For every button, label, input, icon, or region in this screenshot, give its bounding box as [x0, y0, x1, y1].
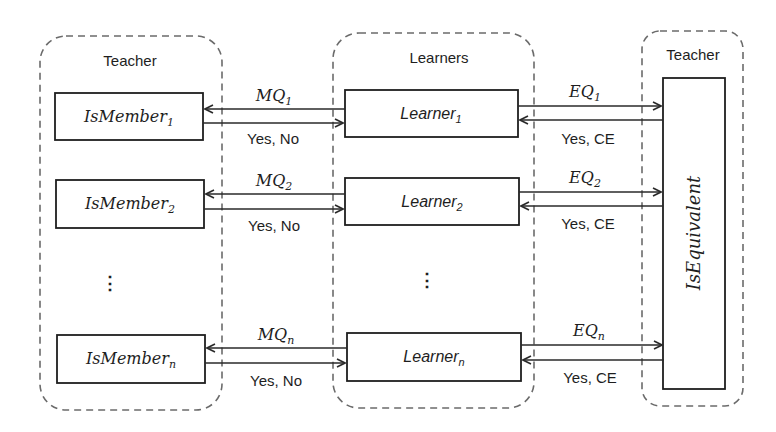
- left-teacher-title: Teacher: [103, 52, 156, 69]
- mq-n-reply-label: Yes, No: [250, 372, 302, 389]
- eq-1-label: EQ1: [568, 82, 601, 104]
- is-member-2-label: IsMember2: [84, 194, 175, 216]
- mq-1-label: MQ1: [255, 86, 293, 108]
- diagram-canvas: Teacher Learners Teacher IsMember1 IsMem…: [0, 0, 776, 432]
- is-member-n-label: IsMembern: [85, 349, 176, 371]
- members-ellipsis: ⋮: [101, 273, 119, 293]
- mq-n-label: MQn: [257, 325, 295, 347]
- eq-2-reply-label: Yes, CE: [561, 215, 615, 232]
- is-member-1-label: IsMember1: [83, 107, 174, 129]
- learners-ellipsis: ⋮: [418, 270, 436, 290]
- eq-2-label: EQ2: [568, 168, 601, 190]
- mq-2-label: MQ2: [255, 171, 293, 193]
- eq-n-reply-label: Yes, CE: [563, 369, 617, 386]
- eq-1-reply-label: Yes, CE: [561, 130, 615, 147]
- mq-1-reply-label: Yes, No: [247, 130, 299, 147]
- is-equivalent-label: IsEquivalent: [683, 175, 704, 291]
- mq-2-reply-label: Yes, No: [248, 217, 300, 234]
- learners-title: Learners: [409, 49, 468, 66]
- right-teacher-title: Teacher: [666, 46, 719, 63]
- eq-n-label: EQn: [572, 321, 605, 343]
